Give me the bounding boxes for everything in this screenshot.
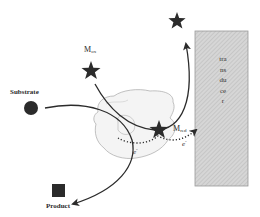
mediator-ox-label: Mox <box>84 46 96 54</box>
electron-label-2: e- <box>182 139 187 148</box>
mediator-ox-star-icon <box>82 61 101 79</box>
mediator-red-label: Mred <box>173 125 187 133</box>
mediator-ox-label-sub: ox <box>91 49 96 54</box>
product-label: Product <box>46 203 70 210</box>
regenerated-mediator-star-icon <box>168 12 185 29</box>
biosensor-diagram: Substrate Product Mox Mred e- e- transdu… <box>0 0 260 217</box>
electron-label-1-sup: - <box>136 147 138 152</box>
substrate-label: Substrate <box>10 89 39 96</box>
mediator-red-label-sub: red <box>180 128 186 133</box>
electron-label-2-sup: - <box>185 139 187 144</box>
product-marker-icon <box>52 184 65 197</box>
substrate-marker-icon <box>24 101 38 115</box>
diagram-canvas <box>0 0 260 217</box>
transducer-label: transducer <box>219 54 227 107</box>
electron-label-1: e- <box>133 147 138 156</box>
